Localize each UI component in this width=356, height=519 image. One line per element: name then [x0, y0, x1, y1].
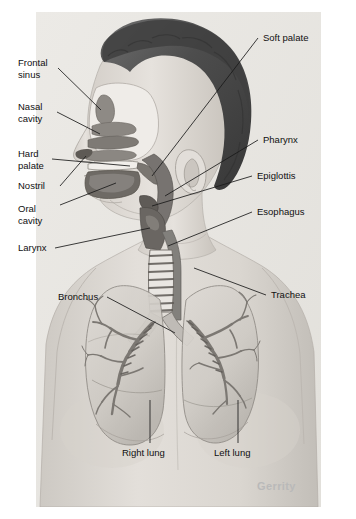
respiratory-system-figure: Frontal sinus Nasal cavity Hard palate N… [0, 0, 356, 519]
illustration-plate [36, 12, 321, 507]
label-bronchus: Bronchus [58, 291, 98, 302]
label-hard-palate: Hard [18, 148, 39, 159]
label-oral-cavity: Oral [18, 203, 36, 214]
label-trachea: Trachea [271, 289, 306, 300]
label-nostril: Nostril [18, 180, 45, 191]
nasal-conchae [86, 122, 139, 161]
label-larynx: Larynx [18, 242, 47, 253]
label-soft-palate: Soft palate [263, 32, 308, 43]
label-pharynx: Pharynx [263, 134, 298, 145]
label-esophagus: Esophagus [257, 206, 305, 217]
hard-palate-structure [88, 161, 138, 170]
label-frontal-sinus-line2: sinus [18, 69, 40, 80]
label-nasal-cavity-line2: cavity [18, 113, 43, 124]
label-frontal-sinus: Frontal [18, 57, 48, 68]
artist-watermark: Gerrity [257, 480, 296, 492]
label-epiglottis: Epiglottis [257, 170, 296, 181]
label-right-lung: Right lung [122, 447, 165, 458]
label-oral-cavity-line2: cavity [18, 215, 43, 226]
label-left-lung: Left lung [214, 447, 250, 458]
anatomy-illustration: Frontal sinus Nasal cavity Hard palate N… [0, 0, 356, 519]
label-nasal-cavity: Nasal [18, 101, 42, 112]
label-hard-palate-line2: palate [18, 160, 44, 171]
